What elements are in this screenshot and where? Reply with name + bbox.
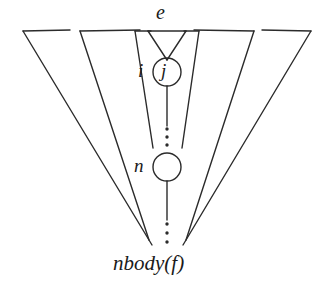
funnel-inner-1-right-diagonal bbox=[182, 31, 199, 148]
label-edge-e: e bbox=[156, 2, 165, 22]
funnel-outer-1-top-right-segment bbox=[262, 30, 311, 31]
dots-above-n bbox=[165, 127, 168, 146]
nbody-funnel-diagram: e i j n nbody(f) bbox=[0, 0, 323, 292]
funnel-outer-1-left-diagonal bbox=[23, 31, 152, 245]
triangle-left-edge bbox=[148, 31, 167, 60]
dots-below-n bbox=[165, 222, 168, 243]
funnel-outer-2-top-right-segment bbox=[194, 30, 254, 31]
diagram-canvas bbox=[0, 0, 323, 292]
funnel-outer-1-top-left-segment bbox=[23, 30, 70, 31]
triangle-right-edge bbox=[167, 31, 186, 60]
funnel-outer-2-top-left-segment bbox=[80, 30, 140, 31]
funnel-outer-2-right-diagonal bbox=[186, 31, 254, 240]
label-node-n: n bbox=[134, 156, 144, 175]
node-circle-n bbox=[153, 153, 181, 181]
funnel-inner-2-triangle bbox=[148, 31, 186, 60]
funnel-outer-1-right-diagonal bbox=[183, 31, 311, 245]
label-node-i: i bbox=[138, 61, 143, 80]
label-bottom-nbody: nbody(f) bbox=[113, 253, 184, 274]
label-node-j: j bbox=[161, 61, 166, 80]
funnel-inner-1-left-diagonal bbox=[135, 31, 153, 148]
node-circle-j bbox=[153, 58, 181, 86]
